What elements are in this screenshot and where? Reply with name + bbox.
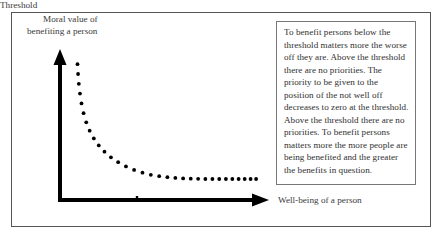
annotation-box: To benefit persons below the threshold m… [276,21,416,185]
y-axis-label-line-2: benefiting a person [27,26,98,38]
x-axis-label: Well-being of a person [278,195,362,207]
annotation-text: To benefit persons below the threshold m… [284,26,409,177]
y-axis-label-line-1: Moral value of [27,14,98,26]
threshold-label: Threshold [0,0,443,10]
y-axis-label: Moral value of benefiting a person [27,14,98,37]
figure-root: Moral value of benefiting a person Well-… [0,0,443,240]
